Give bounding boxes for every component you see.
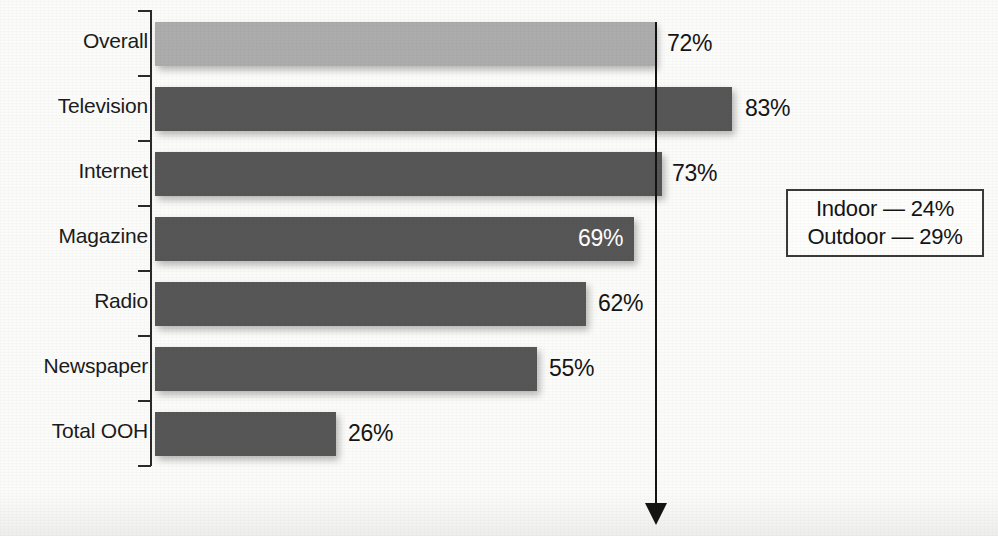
value-label-overall: 72% xyxy=(667,32,712,55)
axis-tick-3 xyxy=(138,205,151,207)
bar-television xyxy=(155,87,732,131)
scan-shadow xyxy=(0,492,998,536)
bar-internet xyxy=(155,152,662,196)
bar-magazine xyxy=(155,217,634,261)
axis-tick-1 xyxy=(138,75,151,77)
axis-tick-0 xyxy=(138,10,151,12)
chart-canvas: Overall Television Internet Magazine Rad… xyxy=(0,0,998,536)
category-axis-labels: Overall Television Internet Magazine Rad… xyxy=(0,0,148,536)
reference-arrow-line xyxy=(655,22,657,510)
value-label-radio: 62% xyxy=(598,292,643,315)
value-label-internet: 73% xyxy=(672,162,717,185)
category-label-television: Television xyxy=(6,95,148,116)
value-label-newspaper: 55% xyxy=(549,357,594,380)
axis-tick-7 xyxy=(138,465,151,467)
bar-newspaper xyxy=(155,347,537,391)
axis-tick-6 xyxy=(138,400,151,402)
category-label-internet: Internet xyxy=(6,160,148,181)
value-label-television: 83% xyxy=(745,97,790,120)
category-label-total-ooh: Total OOH xyxy=(6,420,148,441)
category-axis-line xyxy=(150,10,152,466)
category-label-overall: Overall xyxy=(6,30,148,51)
bar-overall xyxy=(155,22,655,66)
legend: Indoor — 24% Outdoor — 29% xyxy=(786,189,984,257)
value-label-total-ooh: 26% xyxy=(348,422,393,445)
value-label-magazine: 69% xyxy=(578,227,623,250)
category-label-magazine: Magazine xyxy=(6,225,148,246)
category-label-radio: Radio xyxy=(6,290,148,311)
legend-item-outdoor: Outdoor — 29% xyxy=(807,223,962,251)
category-label-newspaper: Newspaper xyxy=(6,355,148,376)
axis-tick-4 xyxy=(138,270,151,272)
down-arrow-icon xyxy=(645,503,667,525)
axis-tick-5 xyxy=(138,335,151,337)
legend-item-indoor: Indoor — 24% xyxy=(816,195,954,223)
bar-total-ooh xyxy=(155,412,336,456)
axis-tick-2 xyxy=(138,140,151,142)
bar-radio xyxy=(155,282,586,326)
